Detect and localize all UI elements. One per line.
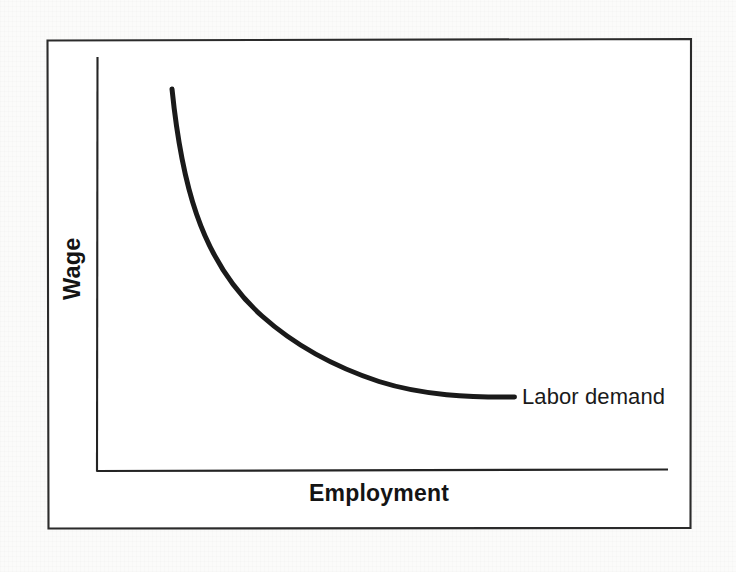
labor-demand-figure: Wage Employment Labor demand: [0, 0, 736, 572]
figure-page: Wage Employment Labor demand: [0, 0, 736, 572]
figure-frame: [48, 39, 692, 529]
curve-label: Labor demand: [522, 384, 665, 409]
x-axis-line: [97, 470, 669, 472]
y-axis-title: Wage: [59, 237, 85, 300]
y-axis-line: [97, 57, 98, 472]
x-axis-title: Employment: [309, 480, 449, 506]
